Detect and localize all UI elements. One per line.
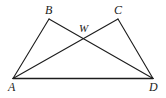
vertex-label-w: W (79, 22, 88, 34)
vertex-label-d: D (149, 81, 158, 93)
geometry-canvas (0, 0, 166, 98)
segment-cd (118, 19, 153, 79)
vertex-label-b: B (45, 4, 52, 16)
geometry-figure: B C W A D (0, 0, 166, 98)
vertex-label-a: A (8, 81, 15, 93)
vertex-label-c: C (114, 4, 122, 16)
segment-ab (13, 19, 49, 79)
